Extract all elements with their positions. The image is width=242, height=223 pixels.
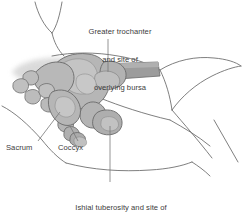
- anatomy-illustration-svg: [0, 0, 242, 223]
- leader-sacrum: [38, 112, 60, 141]
- anatomical-figure: Greater trochanter and site of overlying…: [0, 0, 242, 223]
